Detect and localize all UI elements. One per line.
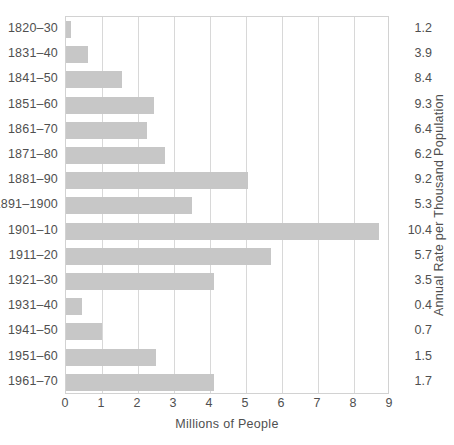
- rate-value: 10.4: [398, 218, 432, 243]
- category-label: 1831–40: [8, 41, 58, 66]
- category-axis: 1820–301831–401841–501851–601861–701871–…: [0, 16, 62, 394]
- bar: [66, 323, 102, 340]
- bar-row: [66, 67, 390, 92]
- x-tick-label: 4: [206, 396, 213, 410]
- bar: [66, 122, 147, 139]
- category-label: 1931–40: [8, 293, 58, 318]
- bar: [66, 374, 214, 391]
- bar-row: [66, 193, 390, 218]
- x-tick-label: 9: [386, 396, 393, 410]
- category-label: 1881–90: [8, 167, 58, 192]
- bar: [66, 248, 271, 265]
- rate-value: 0.7: [398, 318, 432, 343]
- bar: [66, 349, 156, 366]
- x-tick-label: 7: [314, 396, 321, 410]
- bar-row: [66, 269, 390, 294]
- bar: [66, 46, 88, 63]
- category-label: 1891–1900: [0, 192, 58, 217]
- bar: [66, 97, 154, 114]
- bar: [66, 223, 379, 240]
- bar: [66, 273, 214, 290]
- bar: [66, 172, 248, 189]
- bar-chart: 1820–301831–401841–501851–601861–701871–…: [0, 0, 454, 445]
- rate-value: 6.4: [398, 117, 432, 142]
- category-label: 1871–80: [8, 142, 58, 167]
- rate-value-column: 1.23.98.49.36.46.29.25.310.45.73.50.40.7…: [398, 16, 432, 394]
- category-label: 1851–60: [8, 92, 58, 117]
- x-tick-label: 3: [170, 396, 177, 410]
- bar: [66, 147, 165, 164]
- bar-row: [66, 370, 390, 395]
- x-tick-label: 1: [98, 396, 105, 410]
- rate-value: 1.5: [398, 344, 432, 369]
- rate-value: 1.2: [398, 16, 432, 41]
- bar-row: [66, 345, 390, 370]
- rate-value: 3.5: [398, 268, 432, 293]
- bar-row: [66, 42, 390, 67]
- category-label: 1820–30: [8, 16, 58, 41]
- bar-row: [66, 93, 390, 118]
- bar-row: [66, 17, 390, 42]
- bar-row: [66, 118, 390, 143]
- rate-value: 1.7: [398, 369, 432, 394]
- bar-row: [66, 168, 390, 193]
- x-axis-title: Millions of People: [65, 417, 389, 431]
- bar-row: [66, 219, 390, 244]
- bar-row: [66, 244, 390, 269]
- category-label: 1921–30: [8, 268, 58, 293]
- bar-row: [66, 319, 390, 344]
- rate-value: 9.3: [398, 92, 432, 117]
- category-label: 1911–20: [9, 243, 58, 268]
- rate-value: 8.4: [398, 66, 432, 91]
- x-tick-label: 2: [134, 396, 141, 410]
- rate-value: 5.7: [398, 243, 432, 268]
- category-label: 1941–50: [8, 318, 58, 343]
- x-tick-label: 6: [278, 396, 285, 410]
- right-axis-title: Annual Rate per Thousand Population: [428, 16, 450, 394]
- category-label: 1841–50: [8, 66, 58, 91]
- rate-value: 9.2: [398, 167, 432, 192]
- bar-row: [66, 143, 390, 168]
- category-label: 1961–70: [8, 369, 58, 394]
- category-label: 1861–70: [8, 117, 58, 142]
- bar: [66, 197, 192, 214]
- bar: [66, 21, 71, 38]
- bar: [66, 298, 82, 315]
- x-tick-label: 8: [350, 396, 357, 410]
- bar: [66, 71, 122, 88]
- x-tick-label: 5: [242, 396, 249, 410]
- rate-value: 6.2: [398, 142, 432, 167]
- category-label: 1951–60: [8, 344, 58, 369]
- rate-value: 0.4: [398, 293, 432, 318]
- x-axis-ticks: 0123456789: [65, 396, 389, 414]
- rate-value: 5.3: [398, 192, 432, 217]
- rate-value: 3.9: [398, 41, 432, 66]
- bar-row: [66, 294, 390, 319]
- category-label: 1901–10: [8, 218, 58, 243]
- plot-area: [65, 16, 389, 394]
- x-tick-label: 0: [62, 396, 69, 410]
- right-axis-title-text: Annual Rate per Thousand Population: [432, 94, 446, 316]
